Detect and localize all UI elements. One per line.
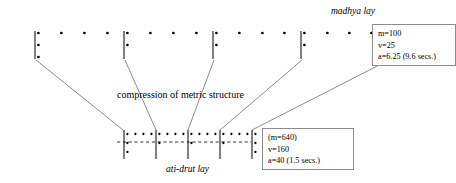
barline-dot [158, 133, 160, 135]
barline-dot [126, 142, 128, 144]
connector-line-5 [252, 60, 389, 130]
barline-dot [222, 133, 224, 135]
barline-dot [303, 44, 306, 47]
beat-dot [60, 32, 63, 35]
beat-dot [206, 133, 208, 135]
barline-dot [215, 44, 218, 47]
beat-dot [172, 32, 175, 35]
barline-dot [37, 32, 40, 35]
ati-drut-lay-label: ati-drut lay [166, 164, 209, 175]
barline-dot [190, 142, 192, 144]
beat-dot [261, 32, 264, 35]
barline-dot [126, 32, 129, 35]
barline-dot [126, 133, 128, 135]
barline-dot [254, 142, 256, 144]
beat-dot [83, 32, 86, 35]
staff-1 [35, 31, 393, 59]
beat-dot [134, 133, 136, 135]
beat-dot [198, 133, 200, 135]
atidrut-info-line-a: a=40 (1.5 secs.) [268, 155, 349, 167]
beat-dot [230, 133, 232, 135]
barline-dot [190, 133, 192, 135]
barline-dot [37, 44, 40, 47]
beat-dot [326, 32, 329, 35]
beat-dot [174, 133, 176, 135]
figure-root: madhya lay ati-drut lay compression of m… [0, 0, 456, 183]
madhya-info-line-m: m=100 [378, 28, 451, 40]
connector-line-1 [36, 60, 123, 130]
barline-dot [37, 56, 40, 59]
madhya-info-line-a: a=6.25 (9.6 secs.) [378, 51, 451, 63]
barline-dot [126, 44, 129, 47]
beat-dot [106, 32, 109, 35]
beat-dot [214, 133, 216, 135]
compression-label: compression of metric structure [117, 89, 244, 101]
barline-dot [254, 133, 256, 135]
beat-dot [238, 32, 241, 35]
beat-dot [150, 133, 152, 135]
beat-dot [142, 133, 144, 135]
atidrut-info-line-v: v=160 [268, 144, 349, 156]
ati-drut-info-box: (m=640) v=160 a=40 (1.5 secs.) [262, 128, 354, 170]
barline-dot [215, 32, 218, 35]
barline-dot [158, 142, 160, 144]
beat-dot [283, 32, 286, 35]
beat-dot [238, 133, 240, 135]
madhya-info-line-v: v=25 [378, 40, 451, 52]
staff-2 [117, 130, 257, 159]
beat-dot [166, 133, 168, 135]
barline-dot [126, 151, 128, 153]
beat-dot [149, 32, 152, 35]
barline-dot [254, 151, 256, 153]
beat-dot [182, 133, 184, 135]
atidrut-info-line-m: (m=640) [268, 132, 349, 144]
barline-dot [303, 32, 306, 35]
beat-dot [195, 32, 198, 35]
barline-dot [222, 142, 224, 144]
beat-dot [348, 32, 351, 35]
beat-dot [246, 133, 248, 135]
madhya-info-box: m=100 v=25 a=6.25 (9.6 secs.) [372, 24, 456, 66]
madhya-lay-label: madhya lay [331, 6, 375, 17]
